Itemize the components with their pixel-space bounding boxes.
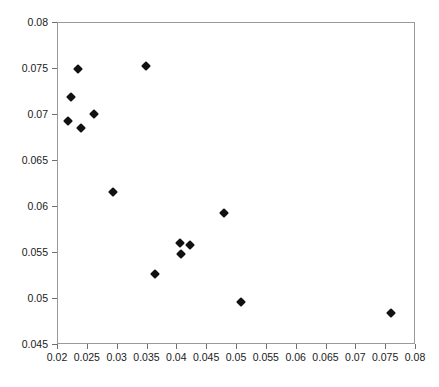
y-axis-tick-label: 0.055	[22, 247, 48, 258]
data-point-marker	[89, 109, 99, 119]
data-point-marker	[236, 297, 246, 307]
y-axis-tick-label: 0.05	[28, 293, 48, 304]
x-axis-tick-label: 0.08	[395, 352, 435, 363]
data-point-marker	[66, 92, 76, 102]
y-axis-tick-label: 0.07	[28, 109, 48, 120]
plot-area	[57, 22, 415, 344]
x-axis-tick	[117, 344, 118, 349]
y-axis-tick-label: 0.045	[22, 339, 48, 350]
data-point-marker	[386, 308, 396, 318]
data-point-marker	[108, 187, 118, 197]
y-axis-tick-label: 0.075	[22, 63, 48, 74]
x-axis-tick	[326, 344, 327, 349]
data-point-marker	[150, 269, 160, 279]
data-point-marker	[175, 238, 185, 248]
data-point-marker	[73, 64, 83, 74]
data-point-marker	[219, 208, 229, 218]
data-point-marker	[176, 249, 186, 259]
x-axis-tick	[355, 344, 356, 349]
x-axis-tick	[206, 344, 207, 349]
x-axis-tick	[296, 344, 297, 349]
x-axis-tick	[385, 344, 386, 349]
data-points-layer	[58, 23, 414, 343]
x-axis-tick	[57, 344, 58, 349]
x-axis-tick	[176, 344, 177, 349]
x-axis-tick	[147, 344, 148, 349]
data-point-marker	[141, 61, 151, 71]
y-axis-tick-label: 0.06	[28, 201, 48, 212]
y-axis-tick-label: 0.065	[22, 155, 48, 166]
scatter-chart: 0.0450.050.0550.060.0650.070.0750.08 0.0…	[0, 0, 439, 387]
x-axis-tick	[236, 344, 237, 349]
y-axis-tick-label: 0.08	[28, 17, 48, 28]
data-point-marker	[76, 123, 86, 133]
x-axis-tick	[266, 344, 267, 349]
x-axis-tick	[87, 344, 88, 349]
data-point-marker	[185, 240, 195, 250]
data-point-marker	[63, 116, 73, 126]
x-axis-tick	[415, 344, 416, 349]
